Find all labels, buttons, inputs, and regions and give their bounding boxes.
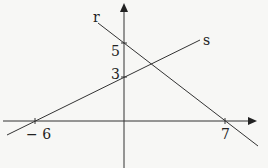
x-axis-arrow-icon (248, 117, 257, 125)
label-xneg6: − 6 (26, 126, 51, 142)
y-axis-arrow-icon (120, 3, 128, 12)
label-s: s (203, 32, 210, 48)
diagram: r s 5 3 − 6 7 (0, 0, 268, 168)
coordinate-plane: r s 5 3 − 6 7 (0, 0, 268, 168)
label-y3: 3 (111, 66, 120, 82)
line-r (98, 23, 258, 146)
label-r: r (93, 9, 100, 25)
label-x7: 7 (221, 126, 230, 142)
label-y5: 5 (111, 43, 120, 59)
